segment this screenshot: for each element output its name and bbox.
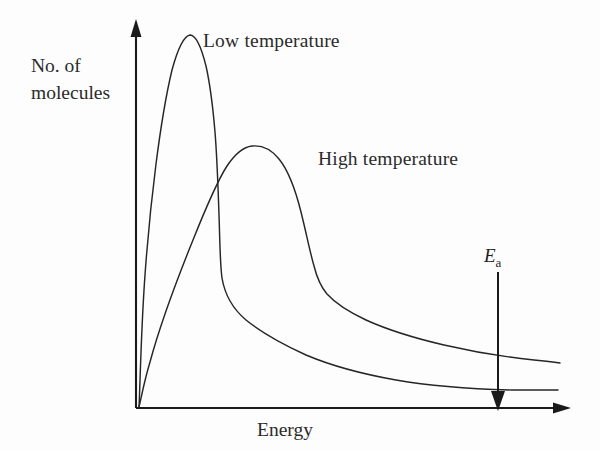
chart-background xyxy=(0,0,600,450)
low-temperature-label: Low temperature xyxy=(203,30,340,51)
x-axis-label: Energy xyxy=(257,419,313,440)
y-axis-label-line1: No. of xyxy=(31,55,81,76)
y-axis-label-line2: molecules xyxy=(31,82,110,103)
chart-root: Ea No. of molecules Energy Low temperatu… xyxy=(0,0,600,450)
maxwell-boltzmann-distribution-chart: Ea No. of molecules Energy Low temperatu… xyxy=(0,0,600,450)
activation-energy-subscript: a xyxy=(496,255,502,270)
high-temperature-label: High temperature xyxy=(318,148,458,169)
activation-energy-symbol: E xyxy=(483,245,496,266)
